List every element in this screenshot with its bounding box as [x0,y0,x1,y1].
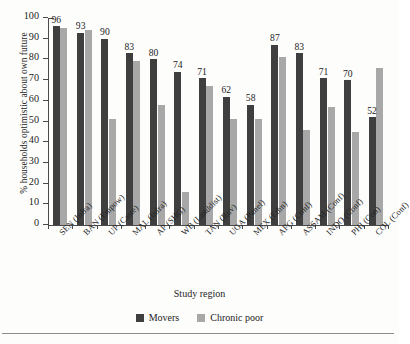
y-axis-tick: 60 [43,100,48,101]
bar-value-label: 70 [339,68,356,79]
y-axis-tick-label: 90 [29,31,39,42]
chart-legend: MoversChronic poor [0,312,399,323]
x-axis-title: Study region [0,288,399,299]
y-axis-tick-label: 30 [29,155,39,166]
legend-label: Movers [149,312,180,323]
y-axis-tick: 40 [43,141,48,142]
y-axis-tick: 90 [43,38,48,39]
bar-value-label: 58 [242,92,259,103]
bar-group: 70 [344,18,359,225]
bar-group: 93 [77,18,92,225]
bar-group: 87 [271,18,286,225]
legend-item: Movers [136,312,180,323]
bar-movers [174,72,181,225]
bar-chronic-poor [376,68,383,225]
y-axis-tick-label: 60 [29,93,39,104]
bar-movers [150,59,157,225]
bar-value-label: 71 [315,66,332,77]
bar-group: 90 [101,18,116,225]
bar-value-label: 80 [145,47,162,58]
y-axis-tick-label: 20 [29,176,39,187]
bar-group: 80 [150,18,165,225]
bar-group: 62 [223,18,238,225]
bar-movers [296,53,303,225]
bar-movers [126,53,133,225]
footer-divider [2,333,394,334]
bar-group: 52 [369,18,384,225]
bar-movers [53,26,60,225]
bar-group: 96 [53,18,68,225]
bar-movers [271,45,278,225]
bar-value-label: 74 [169,59,186,70]
bar-chronic-poor [133,61,140,225]
bar-group: 58 [247,18,262,225]
y-axis-tick-label: 70 [29,72,39,83]
y-axis-tick-label: 10 [29,196,39,207]
y-axis-tick-label: 80 [29,51,39,62]
bar-value-label: 62 [218,84,235,95]
bar-chronic-poor [85,30,92,225]
y-axis-tick: 70 [43,79,48,80]
legend-label: Chronic poor [210,312,263,323]
y-axis-tick: 80 [43,58,48,59]
bar-group: 83 [126,18,141,225]
x-axis-tick [48,225,49,229]
y-axis-tick-label: 0 [34,217,39,228]
legend-item: Chronic poor [197,312,263,323]
legend-swatch-icon [197,314,205,322]
bar-group: 74 [174,18,189,225]
bar-value-label: 52 [364,105,381,116]
y-axis-line [48,18,49,225]
bar-movers [101,39,108,225]
y-axis-tick: 50 [43,121,48,122]
bar-chronic-poor [60,28,67,225]
bar-value-label: 83 [121,41,138,52]
bar-group: 71 [199,18,214,225]
bar-group: 71 [320,18,335,225]
y-axis-tick-label: 40 [29,134,39,145]
bar-value-label: 93 [72,20,89,31]
bar-value-label: 83 [291,41,308,52]
bar-value-label: 87 [266,32,283,43]
y-axis-title: % households optimistic about own future [19,0,29,233]
bar-value-label: 71 [194,66,211,77]
y-axis-tick: 30 [43,162,48,163]
bar-group: 83 [296,18,311,225]
bar-movers [77,33,84,226]
y-axis-tick-label: 100 [24,10,39,21]
y-axis-tick: 20 [43,183,48,184]
legend-swatch-icon [136,314,144,322]
y-axis-tick-label: 50 [29,114,39,125]
bar-value-label: 96 [48,14,65,25]
y-axis-tick: 10 [43,203,48,204]
plot-area: 0102030405060708090100 96939083807471625… [48,18,388,225]
bar-value-label: 90 [96,26,113,37]
